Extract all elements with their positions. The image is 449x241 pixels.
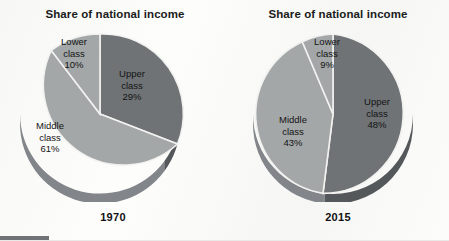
chart-panel-1970: Share of national income Lower class 10%… bbox=[0, 0, 224, 241]
chart-title-2015: Share of national income bbox=[225, 8, 449, 20]
chart-year-2015: 2015 bbox=[225, 211, 449, 223]
pie-chart-1970: Lower class 10% Upper class 29% Middle c… bbox=[12, 26, 188, 202]
chart-panel-2015: Share of national income Lower class 9% … bbox=[225, 0, 449, 241]
bottom-left-marker-bar bbox=[0, 236, 49, 240]
chart-year-1970: 1970 bbox=[0, 211, 224, 223]
pie-svg-2015 bbox=[245, 26, 421, 202]
chart-title-1970: Share of national income bbox=[0, 8, 224, 20]
pie-svg-1970 bbox=[12, 26, 188, 202]
pie-chart-2015: Lower class 9% Upper class 48% Middle cl… bbox=[245, 26, 421, 202]
